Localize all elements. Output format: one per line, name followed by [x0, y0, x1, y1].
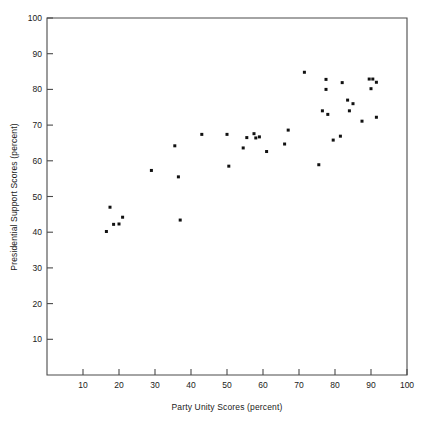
data-point: [283, 143, 286, 146]
y-tick-label-60: 60: [33, 156, 43, 166]
x-tick-label-20: 20: [114, 380, 124, 390]
y-tick-label-100: 100: [28, 13, 42, 23]
y-tick-label-70: 70: [33, 120, 43, 130]
y-tick-label-40: 40: [33, 227, 43, 237]
data-point: [227, 165, 230, 168]
data-point: [112, 223, 115, 226]
data-points-layer: [105, 71, 378, 233]
data-point: [105, 230, 108, 233]
y-tick-label-10: 10: [33, 334, 43, 344]
data-point: [352, 102, 355, 105]
data-point: [265, 150, 268, 153]
y-tick-label-20: 20: [33, 299, 43, 309]
plot-frame: [47, 18, 407, 375]
data-point: [368, 78, 371, 81]
y-axis-ticks: 102030405060708090100: [28, 13, 53, 344]
data-point: [371, 78, 374, 81]
data-point: [109, 206, 112, 209]
data-point: [118, 222, 121, 225]
data-point: [348, 109, 351, 112]
data-point: [150, 169, 153, 172]
y-tick-label-90: 90: [33, 49, 43, 59]
x-tick-label-90: 90: [366, 380, 376, 390]
data-point: [341, 81, 344, 84]
x-tick-label-40: 40: [186, 380, 196, 390]
data-point: [303, 71, 306, 74]
y-axis-title: Presidential Support Scores (percent): [9, 123, 19, 270]
x-tick-label-60: 60: [258, 380, 268, 390]
data-point: [287, 129, 290, 132]
y-tick-label-50: 50: [33, 192, 43, 202]
data-point: [226, 133, 229, 136]
scatter-plot-figure: 102030405060708090100 102030405060708090…: [0, 0, 430, 428]
x-axis-ticks: 102030405060708090100: [78, 369, 414, 390]
data-point: [317, 163, 320, 166]
data-point: [325, 88, 328, 91]
x-tick-label-70: 70: [294, 380, 304, 390]
x-tick-label-50: 50: [222, 380, 232, 390]
data-point: [326, 113, 329, 116]
data-point: [173, 144, 176, 147]
data-point: [361, 120, 364, 123]
data-point: [179, 219, 182, 222]
data-point: [332, 139, 335, 142]
data-point: [325, 78, 328, 81]
plot-canvas: 102030405060708090100 102030405060708090…: [0, 0, 430, 428]
x-tick-label-30: 30: [150, 380, 160, 390]
data-point: [321, 109, 324, 112]
x-tick-label-80: 80: [330, 380, 340, 390]
data-point: [200, 133, 203, 136]
y-tick-label-30: 30: [33, 263, 43, 273]
axes-frame: [47, 18, 407, 375]
y-tick-label-80: 80: [33, 84, 43, 94]
x-axis-title: Party Unity Scores (percent): [172, 402, 283, 412]
data-point: [254, 136, 257, 139]
data-point: [177, 175, 180, 178]
x-tick-label-100: 100: [400, 380, 414, 390]
data-point: [375, 116, 378, 119]
data-point: [370, 87, 373, 90]
data-point: [339, 135, 342, 138]
data-point: [242, 146, 245, 149]
data-point: [375, 81, 378, 84]
data-point: [121, 216, 124, 219]
data-point: [258, 135, 261, 138]
data-point: [253, 132, 256, 135]
x-tick-label-10: 10: [78, 380, 88, 390]
data-point: [346, 99, 349, 102]
data-point: [245, 136, 248, 139]
